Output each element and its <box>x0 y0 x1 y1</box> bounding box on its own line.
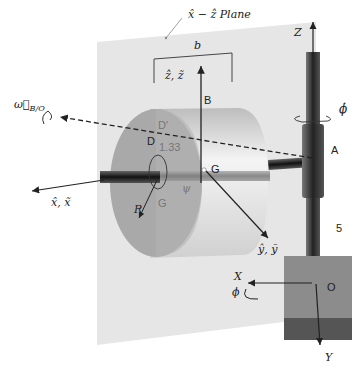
plane-label: x̂ − ẑ Plane <box>188 9 251 20</box>
Z-axis-label: Z <box>294 27 302 38</box>
x-hat-label: x̂, x̃ <box>51 197 70 208</box>
point-A-label: A <box>331 145 338 156</box>
z-hat-label: ẑ, z̃ <box>165 70 184 81</box>
X-axis-label: X <box>234 271 242 282</box>
shaft-collar <box>302 124 324 198</box>
point-D-label: D <box>147 136 155 147</box>
y-hat-label: ŷ, ỹ <box>258 244 277 255</box>
phi-dot-label: ϕ̇ <box>339 103 347 115</box>
length-5-label: 5 <box>336 223 342 234</box>
point-B-label: B <box>204 95 211 106</box>
omega-subscript: B/O <box>30 104 45 113</box>
point-G-face-label: G <box>158 198 167 209</box>
dimension-b-label: b <box>194 40 201 51</box>
point-G-center-label: G <box>211 164 220 175</box>
phi-label: ϕ <box>232 287 240 298</box>
omega-symbol: ω⃗ <box>14 98 30 111</box>
radius-R-label: R <box>134 204 142 215</box>
diagram-canvas <box>0 0 362 376</box>
point-O-label: O <box>327 282 336 293</box>
value-1-33-label: 1.33 <box>159 142 180 153</box>
psi-label: ψ <box>182 183 191 194</box>
omega-label: ω⃗B/O <box>14 99 45 113</box>
point-D-prime-label: D' <box>158 120 168 131</box>
Y-axis-label: Y <box>325 352 332 363</box>
